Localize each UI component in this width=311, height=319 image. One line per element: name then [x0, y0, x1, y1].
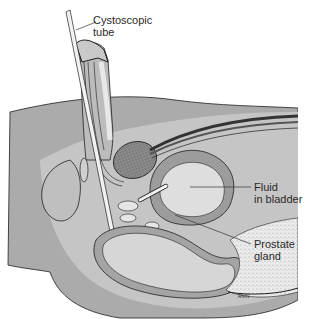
label-fluid-in-bladder: Fluid in bladder: [254, 181, 302, 205]
label-prostate-gland: Prostate gland: [254, 238, 295, 262]
artist-signature: RMN: [238, 293, 249, 299]
label-cystoscopic-tube: Cystoscopic tube: [93, 14, 152, 38]
cystoscopy-illustration: [0, 0, 311, 319]
